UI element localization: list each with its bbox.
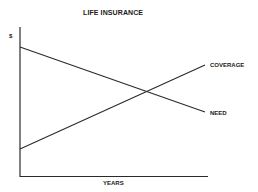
coverage-line	[20, 65, 205, 149]
x-axis-label: YEARS	[103, 180, 124, 186]
y-axis-label: $	[9, 33, 12, 39]
need-line	[20, 47, 205, 112]
coverage-label: COVERAGE	[210, 62, 244, 68]
chart-title: LIFE INSURANCE	[83, 9, 143, 16]
chart-canvas	[0, 0, 258, 192]
need-label: NEED	[210, 110, 227, 116]
